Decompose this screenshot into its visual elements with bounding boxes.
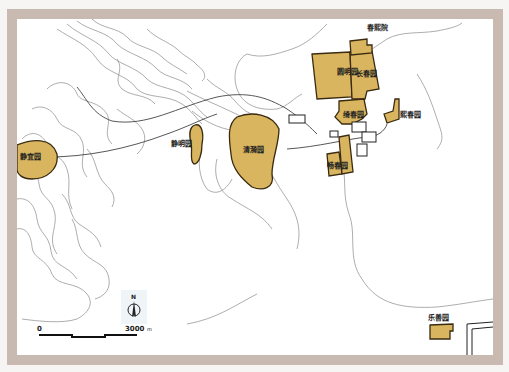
map-canvas: 圆明园 长春园 春熙院 绮春园 熙春园 畅春园 清漪园 静明园 静宜园 乐善园 … bbox=[17, 19, 493, 355]
garden-areas bbox=[17, 39, 453, 339]
north-arrow-icon bbox=[121, 290, 147, 324]
label-qingyiyuan: 清漪园 bbox=[243, 147, 264, 154]
label-leshanyuan: 乐善园 bbox=[428, 315, 449, 322]
label-yuanmingyuan: 圆明园 bbox=[337, 69, 358, 76]
label-qichunyuan: 绮春园 bbox=[343, 112, 364, 119]
scale-end-label: 3000 bbox=[125, 326, 144, 333]
boundary-lines bbox=[467, 322, 493, 355]
label-jingyiyuan: 静宜园 bbox=[20, 154, 41, 161]
compass: N bbox=[121, 290, 147, 324]
label-xichunyuan: 熙春园 bbox=[400, 112, 421, 119]
label-changchunyuan-2: 畅春园 bbox=[327, 163, 348, 170]
map-drawing bbox=[17, 19, 493, 355]
scale-bar bbox=[39, 335, 137, 337]
label-jingmingyuan: 静明园 bbox=[171, 141, 192, 148]
label-changchunyuan: 长春园 bbox=[356, 71, 377, 78]
building-blocks bbox=[289, 115, 376, 156]
scale-unit-label: m bbox=[147, 327, 152, 332]
label-chunxiyuan: 春熙院 bbox=[367, 25, 388, 32]
scale-start-label: 0 bbox=[37, 326, 42, 333]
